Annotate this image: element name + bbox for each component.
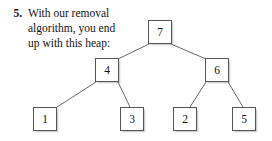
tree-node-right: 6 — [205, 58, 229, 82]
tree-node-value: 6 — [214, 64, 220, 76]
tree-edge-right-leaf4 — [228, 82, 243, 107]
tree-edge-right-leaf3 — [190, 82, 206, 107]
tree-node-leaf4: 5 — [232, 107, 256, 131]
tree-node-left: 4 — [95, 58, 119, 82]
tree-node-value: 1 — [42, 113, 48, 125]
tree-node-leaf1: 1 — [33, 107, 57, 131]
tree-node-value: 2 — [182, 113, 188, 125]
tree-edge-left-leaf2 — [118, 82, 130, 107]
tree-node-value: 5 — [241, 113, 247, 125]
tree-node-root: 7 — [148, 20, 172, 44]
tree-node-value: 3 — [129, 113, 135, 125]
tree-node-value: 7 — [157, 26, 163, 38]
binary-heap-diagram: 7461325 — [0, 0, 272, 141]
tree-node-value: 4 — [104, 64, 110, 76]
tree-edge-root-right — [171, 44, 206, 59]
exercise-figure-page: 5. With our removal algorithm, you end u… — [0, 0, 272, 141]
tree-node-leaf2: 3 — [120, 107, 144, 131]
tree-edge-root-left — [118, 44, 149, 59]
tree-node-leaf3: 2 — [173, 107, 197, 131]
tree-edge-left-leaf1 — [57, 82, 96, 107]
